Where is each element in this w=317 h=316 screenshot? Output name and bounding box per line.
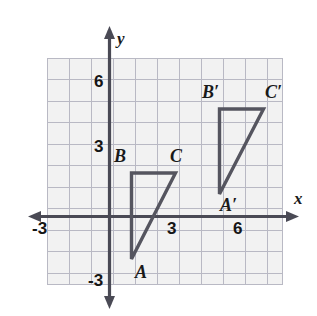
x-tick-label-neg3: -3 [32,220,47,237]
x-tick-label-3: 3 [167,220,176,237]
y-tick-label-neg3: -3 [88,272,103,289]
x-axis-arrow-right [286,211,299,222]
y-axis-arrow-down [104,296,115,309]
y-tick-label-3: 3 [94,138,103,155]
coordinate-plane-svg [0,0,317,316]
vertex-label-a: A [135,263,147,281]
y-axis-arrow-up [104,26,115,39]
vertex-label-c: C [170,147,182,165]
vertex-label-c-prime: C′ [265,83,282,101]
vertex-label-a-prime: A′ [220,196,237,214]
x-tick-label-6: 6 [233,220,242,237]
y-tick-label-6: 6 [94,73,103,90]
y-axis-label: y [117,30,125,47]
vertex-label-b: B [114,147,126,165]
vertex-label-b-prime: B′ [202,83,219,101]
coordinate-plane-figure: y x -3 3 6 6 3 -3 B C A B′ C′ A′ [0,0,317,316]
x-axis-label: x [294,190,303,207]
